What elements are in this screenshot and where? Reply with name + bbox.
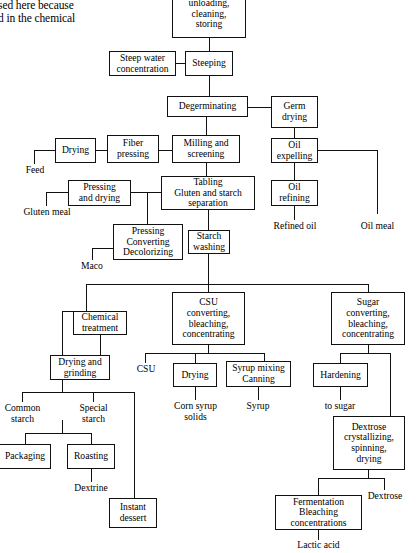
node-tabling-label: TablingGluten and starchseparation [174,177,242,209]
node-pressing-converting-decolorizing[interactable]: PressingConvertingDecolorizing [113,224,183,260]
node-oil-refining-label: Oilrefining [279,182,309,203]
edge-drying-feed-h [34,150,55,151]
node-packaging[interactable]: Packaging [0,444,51,469]
edge-dextrose-terminal [384,478,385,490]
terminal-refined-oil: Refined oil [264,221,326,232]
node-sugar-converting-label: Sugarconverting,bleaching,concentrating [342,297,394,339]
edge-bus-chemicaltreatment [86,284,87,311]
edge-tabling-starchwashing [208,210,209,230]
node-drying-csu[interactable]: Drying [173,363,217,387]
edge-pressingconverting-maco-v [92,248,93,260]
node-germ-drying[interactable]: Germdrying [271,96,318,128]
node-steeping[interactable]: Steeping [185,51,233,76]
node-hardening[interactable]: Hardening [313,363,368,387]
edge-fiberpressing-drying [96,150,107,151]
terminal-gluten-meal-label: Gluten meal [23,206,70,217]
node-chemical-treatment[interactable]: Chemicaltreatment [73,311,127,335]
node-steep-water-label: Steep waterconcentration [116,53,168,74]
edge-oilrefining-refinedoil [294,206,295,220]
node-pressing-and-drying-label: Pressingand drying [79,182,120,203]
node-unloading-cleaning-storing[interactable]: unloading,cleaning,storing [172,0,246,38]
node-drying-fiber[interactable]: Drying [55,138,96,163]
edge-oilexpelling-oilmeal-h [318,150,378,151]
node-chemical-treatment-label: Chemicaltreatment [82,312,119,333]
node-fiber-pressing-label: Fiberpressing [117,138,149,159]
edge-pressingconverting-maco-h [92,248,113,249]
node-pressing-and-drying[interactable]: Pressingand drying [68,180,131,206]
node-milling-screening[interactable]: Milling andscreening [172,135,240,163]
terminal-feed-label: Feed [26,164,45,175]
terminal-dextrose: Dextrose [359,491,411,502]
node-hardening-label: Hardening [320,370,361,381]
node-degerminating-label: Degerminating [179,101,237,112]
edge-csu-drying [195,353,196,363]
edge-hardening-tosugar [340,387,341,400]
edge-specialstarch [93,392,94,402]
terminal-special-starch: Specialstarch [70,403,117,424]
edge-drying-cornsyrupsolids [195,387,196,400]
node-instant-dessert[interactable]: Instantdessert [109,498,157,528]
terminal-common-starch: Commonstarch [0,403,46,424]
terminal-common-starch-label: Commonstarch [5,402,41,424]
terminal-feed: Feed [14,165,56,176]
edge-csu-fork-v [208,345,209,353]
node-fiber-pressing[interactable]: Fiberpressing [107,135,159,163]
node-tabling-gluten-starch-separation[interactable]: TablingGluten and starchseparation [161,176,255,210]
edge-roasting-dextrine [91,469,92,482]
node-steeping-label: Steeping [192,58,226,69]
edge-roasting [91,433,92,444]
edge-dryinggrinding-fork-v [62,380,63,392]
edge-instantdessert-v [134,392,135,498]
node-steep-water-concentration[interactable]: Steep waterconcentration [109,51,176,76]
node-sugar-converting-bleaching-concentrating[interactable]: Sugarconverting,bleaching,concentrating [331,292,405,345]
edge-steepwater-steeping [176,63,185,64]
edge-bus-sugarconverting [368,284,369,292]
terminal-dextrine-label: Dextrine [74,482,108,493]
edge-pressingdrying-glutenmeal-h [46,192,68,193]
edge-steeping-degerminating [209,76,210,96]
edge-starch-pkgroast-h [25,433,91,434]
node-starch-washing-label: Starchwashing [193,231,225,252]
node-drying-fiber-label: Drying [62,145,89,156]
edge-oilexpelling-oilmeal-v [377,150,378,214]
edge-dextrosecryst-fork-h [318,478,384,479]
terminal-syrup: Syrup [236,401,280,412]
edge-degerminating-germdrying [248,107,271,108]
edge-sugar-fork-h [340,353,390,354]
edge-bus-csuconverting [208,284,209,292]
node-fermentation-label: FermentationBleachingconcentrations [291,497,347,529]
edge-pressingdrying-glutenmeal-v [46,192,47,206]
node-roasting[interactable]: Roasting [67,444,115,469]
edge-drying-feed-v [34,150,35,164]
terminal-dextrose-label: Dextrose [368,490,403,501]
terminal-oil-meal-label: Oil meal [361,220,394,231]
caption-fragment-line2: d in the chemical [0,12,75,25]
edge-tabling-pressingdrying [131,192,161,193]
node-oil-refining[interactable]: Oilrefining [271,180,318,206]
edge-syrupmixing-syrup [258,387,259,400]
node-germ-drying-label: Germdrying [282,101,307,122]
node-degerminating[interactable]: Degerminating [167,96,248,117]
terminal-oil-meal: Oil meal [349,221,406,232]
node-oil-expelling-label: Oilexpelling [277,140,313,161]
node-starch-washing[interactable]: Starchwashing [188,230,230,254]
node-instant-dessert-label: Instantdessert [120,502,147,523]
node-syrup-mixing-label: Syrup mixingCanning [232,363,285,384]
terminal-gluten-meal: Gluten meal [8,207,86,218]
node-dextrose-crystallizing-spinning-drying[interactable]: Dextrosecrystallizing,spinning,drying [333,416,405,470]
edge-germdrying-oilexpelling [294,128,295,138]
node-milling-label: Milling andscreening [183,138,228,159]
edge-csu-terminal [145,353,146,363]
node-drying-and-grinding-label: Drying andgrinding [58,357,101,378]
edge-degerminating-milling [206,117,207,135]
node-roasting-label: Roasting [74,451,108,462]
node-oil-expelling[interactable]: Oilexpelling [271,138,318,163]
node-fermentation-bleaching-concentrations[interactable]: FermentationBleachingconcentrations [275,495,362,530]
edge-starch-pkgroast-v [62,420,63,433]
edge-oilexpelling-oilrefining [294,163,295,180]
node-csu-converting-bleaching-concentrating[interactable]: CSUconverting,bleaching,concentrating [172,292,245,345]
terminal-csu-label: CSU [137,363,156,374]
node-syrup-mixing-canning[interactable]: Syrup mixingCanning [226,361,291,387]
terminal-csu: CSU [127,364,165,375]
node-drying-and-grinding[interactable]: Drying andgrinding [50,355,110,380]
